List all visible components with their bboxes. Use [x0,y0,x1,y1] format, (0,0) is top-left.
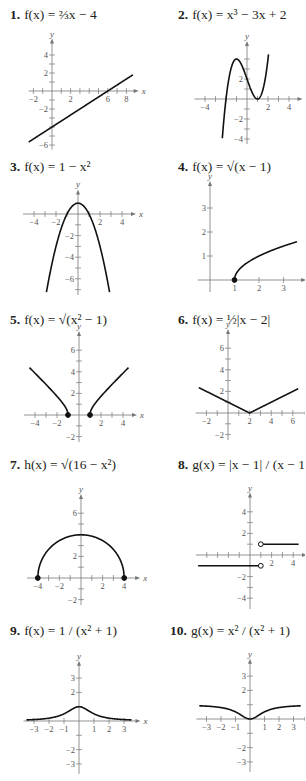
x-tick-label: −2 [202,416,211,426]
x-axis-arrow [136,719,141,723]
x-tick-label: 3 [291,722,295,732]
x-tick-label: −1 [59,724,68,734]
y-tick-label: −6 [65,274,74,284]
y-tick-label: −2 [66,745,75,755]
graph-10: −3−2−1123−3−223y [196,649,305,772]
y-tick-label: 2 [73,551,77,561]
y-axis-label: y [78,484,83,494]
x-tick-label: 8 [124,94,128,104]
y-tick-label: 1 [202,251,206,261]
x-tick-label: −4 [30,418,40,428]
y-tick-label: −2 [234,114,243,124]
x-tick-label: 1 [92,724,96,734]
x-tick-label: 2 [99,418,103,428]
x-axis-arrow [301,278,305,282]
graph-4: 123123y [198,171,305,293]
y-tick-label: −2 [237,572,246,582]
graph-2: −424−4−22xy [195,31,306,144]
x-tick-label: −2 [51,217,60,227]
y-axis-arrow [226,329,230,334]
open-endpoint [258,563,263,568]
y-tick-label: −3 [237,757,246,767]
x-axis-label: x [142,573,147,583]
y-axis-arrow [76,189,80,194]
y-tick-label: 2 [44,68,48,78]
x-tick-label: −2 [29,94,38,104]
closed-endpoint [66,413,71,418]
y-tick-label: 6 [220,343,224,353]
x-axis-arrow [135,576,140,580]
x-tick-label: 1 [262,722,266,732]
x-tick-label: 2 [269,558,273,568]
x-axis-arrow [132,413,137,417]
function-curve [235,242,297,280]
x-axis-label: x [305,94,306,104]
y-axis-arrow [248,493,252,498]
x-tick-label: 6 [106,94,110,104]
y-tick-label: 6 [71,345,75,355]
graph-3: −4−224−6−4−2xy [23,179,143,295]
y-axis-label: y [207,171,212,181]
y-axis-label: y [244,31,249,41]
closed-endpoint [122,576,127,581]
graph-7: −4−224−226xy [27,484,147,605]
y-tick-label: −2 [68,595,77,605]
function-curve [30,368,69,415]
x-axis-label: x [143,716,148,726]
closed-endpoint [88,413,93,418]
x-axis-label: x [139,410,144,420]
y-tick-label: 2 [202,227,206,237]
x-axis-arrow [298,97,303,101]
y-axis-arrow [248,659,252,664]
y-tick-label: −4 [65,252,75,262]
graph-9: −3−2−1123−3−223xy [24,651,148,774]
x-tick-label: −2 [44,724,53,734]
x-tick-label: 2 [277,722,281,732]
x-tick-label: −1 [231,722,240,732]
x-axis-arrow [302,553,305,557]
y-tick-label: 2 [220,386,224,396]
open-endpoint [258,542,263,547]
closed-endpoint [232,278,237,283]
y-tick-label: 2 [71,388,75,398]
x-tick-label: −4 [29,217,39,227]
graph-6: −2246−2246xy [196,319,305,440]
x-tick-label: 2 [266,102,270,112]
x-tick-label: −3 [202,722,211,732]
graph-5: −4−224−2246xy [24,321,144,442]
y-axis-label: y [247,649,252,659]
x-tick-label: 2 [257,283,261,293]
x-tick-label: −4 [200,102,210,112]
y-tick-label: −2 [65,231,74,241]
closed-endpoint [35,576,40,581]
y-tick-label: 3 [242,671,246,681]
x-tick-label: −2 [52,418,61,428]
x-tick-label: 6 [291,416,295,426]
x-tick-label: 4 [122,581,127,591]
y-tick-label: 4 [220,365,225,375]
function-curve [90,368,129,415]
y-tick-label: 4 [242,507,247,517]
y-tick-label: 3 [71,673,75,683]
y-axis-label: y [76,651,81,661]
x-tick-label: 4 [287,102,292,112]
x-tick-label: 2 [107,724,111,734]
x-axis-label: x [141,86,146,96]
y-axis-arrow [77,331,81,336]
y-axis-label: y [75,179,80,189]
x-tick-label: −4 [33,581,43,591]
y-tick-label: −6 [39,140,48,150]
y-tick-label: 4 [71,367,76,377]
x-axis-arrow [131,212,136,216]
x-tick-label: −2 [216,722,225,732]
y-tick-label: 2 [239,74,243,84]
y-axis-arrow [245,41,249,46]
y-axis-arrow [208,181,212,186]
y-tick-label: −2 [215,430,224,440]
y-tick-label: 2 [242,528,246,538]
x-tick-label: 4 [121,418,126,428]
y-axis-arrow [50,39,54,44]
function-curve [222,54,268,138]
x-tick-label: 2 [247,416,251,426]
x-tick-label: 4 [291,558,296,568]
